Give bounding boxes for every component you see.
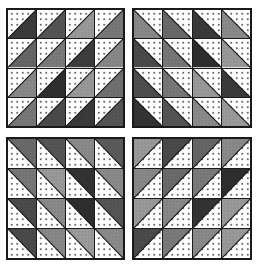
fabric-triangle <box>193 169 221 198</box>
hst-unit <box>163 69 191 97</box>
hst-unit <box>95 98 123 126</box>
fabric-triangle <box>134 39 162 67</box>
fabric-triangle <box>66 169 94 198</box>
hst-unit <box>95 69 123 97</box>
hst-unit <box>95 39 123 67</box>
hst-unit <box>163 169 191 198</box>
fabric-triangle <box>37 39 65 67</box>
hst-unit <box>8 10 36 38</box>
fabric-triangle <box>37 169 65 198</box>
quilt-block-bottom-right <box>132 137 252 260</box>
hst-unit <box>66 199 94 228</box>
hst-unit <box>163 10 191 38</box>
hst-unit <box>222 10 250 38</box>
hst-unit <box>222 139 250 168</box>
fabric-triangle <box>66 39 94 67</box>
fabric-triangle <box>222 169 250 198</box>
hst-unit <box>66 139 94 168</box>
quilt-block-top-right <box>132 8 252 128</box>
fabric-triangle <box>134 169 162 198</box>
hst-unit <box>222 199 250 228</box>
hst-unit <box>66 10 94 38</box>
hst-unit <box>193 229 221 258</box>
fabric-triangle <box>134 199 162 228</box>
fabric-triangle <box>163 139 191 168</box>
hst-unit <box>37 98 65 126</box>
hst-unit <box>8 199 36 228</box>
fabric-triangle <box>8 169 36 198</box>
hst-unit <box>37 10 65 38</box>
hst-unit <box>134 139 162 168</box>
hst-unit <box>222 229 250 258</box>
hst-unit <box>163 39 191 67</box>
hst-unit <box>8 69 36 97</box>
hst-unit <box>66 39 94 67</box>
fabric-triangle <box>222 39 250 67</box>
fabric-triangle <box>37 10 65 38</box>
hst-unit <box>193 39 221 67</box>
fabric-triangle <box>37 199 65 228</box>
fabric-triangle <box>222 229 250 258</box>
fabric-triangle <box>8 98 36 126</box>
fabric-triangle <box>95 69 123 97</box>
fabric-triangle <box>134 229 162 258</box>
hst-unit <box>163 139 191 168</box>
fabric-triangle <box>193 98 221 126</box>
fabric-triangle <box>163 199 191 228</box>
hst-unit <box>134 98 162 126</box>
fabric-triangle <box>134 98 162 126</box>
fabric-triangle <box>222 69 250 97</box>
fabric-triangle <box>95 169 123 198</box>
hst-unit <box>193 69 221 97</box>
fabric-triangle <box>193 69 221 97</box>
hst-unit <box>193 199 221 228</box>
hst-unit <box>222 39 250 67</box>
fabric-triangle <box>134 69 162 97</box>
hst-unit <box>222 69 250 97</box>
hst-unit <box>66 69 94 97</box>
fabric-triangle <box>37 229 65 258</box>
fabric-triangle <box>95 229 123 258</box>
fabric-triangle <box>193 39 221 67</box>
hst-unit <box>37 139 65 168</box>
hst-unit <box>134 69 162 97</box>
fabric-triangle <box>37 69 65 97</box>
fabric-triangle <box>163 39 191 67</box>
fabric-triangle <box>66 10 94 38</box>
quilt-block-top-left <box>6 8 125 128</box>
hst-unit <box>37 69 65 97</box>
fabric-triangle <box>8 139 36 168</box>
fabric-triangle <box>66 139 94 168</box>
hst-unit <box>134 10 162 38</box>
hst-unit <box>193 169 221 198</box>
fabric-triangle <box>163 10 191 38</box>
fabric-triangle <box>193 10 221 38</box>
fabric-triangle <box>222 98 250 126</box>
hst-unit <box>163 98 191 126</box>
hst-unit <box>163 199 191 228</box>
fabric-triangle <box>222 10 250 38</box>
fabric-triangle <box>37 139 65 168</box>
fabric-triangle <box>8 39 36 67</box>
hst-unit <box>37 39 65 67</box>
fabric-triangle <box>163 229 191 258</box>
hst-unit <box>95 169 123 198</box>
fabric-triangle <box>95 199 123 228</box>
fabric-triangle <box>163 98 191 126</box>
fabric-triangle <box>134 139 162 168</box>
hst-unit <box>193 10 221 38</box>
hst-unit <box>95 199 123 228</box>
hst-unit <box>66 169 94 198</box>
fabric-triangle <box>95 98 123 126</box>
hst-unit <box>8 169 36 198</box>
hst-unit <box>37 229 65 258</box>
hst-unit <box>8 39 36 67</box>
hst-unit <box>134 169 162 198</box>
fabric-triangle <box>193 229 221 258</box>
hst-unit <box>95 139 123 168</box>
fabric-triangle <box>8 10 36 38</box>
fabric-triangle <box>134 10 162 38</box>
hst-unit <box>134 229 162 258</box>
fabric-triangle <box>95 39 123 67</box>
hst-unit <box>134 39 162 67</box>
